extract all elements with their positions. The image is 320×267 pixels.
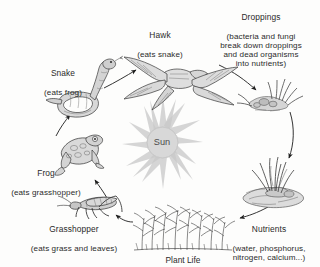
- snake-subtitle: (eats frog): [24, 88, 102, 97]
- snake-label: Snake (eats frog): [24, 60, 102, 107]
- snake-graphic-layer: [0, 0, 320, 267]
- snake-title: Snake: [24, 69, 102, 78]
- food-chain-diagram: Sun: [0, 0, 320, 267]
